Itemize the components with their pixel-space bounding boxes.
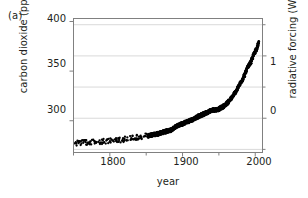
figure-panel-a: (a) carbon dioxide (ppm) radiative forci… xyxy=(0,0,308,198)
plot-canvas xyxy=(0,0,308,198)
